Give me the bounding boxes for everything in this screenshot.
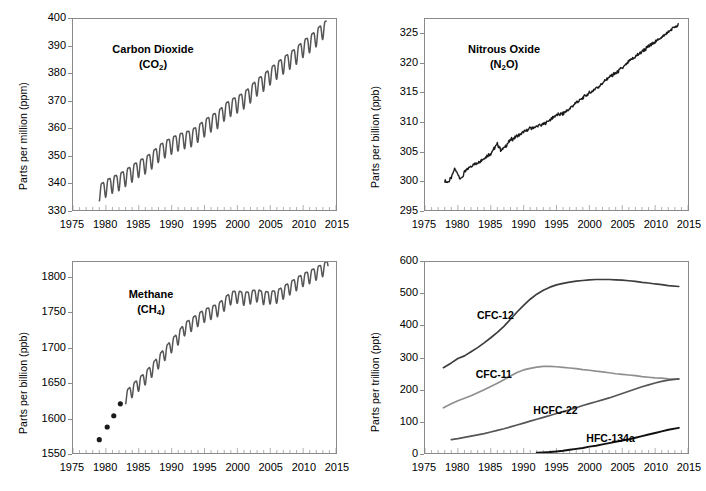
x-tick-label: 2015 [317, 218, 357, 230]
gas-title-n2o-name: Nitrous Oxide [468, 43, 540, 55]
series-label-cfc-11: CFC-11 [476, 368, 512, 380]
y-tick-label: 0 [380, 447, 418, 459]
y-tick-mark [420, 92, 424, 93]
y-tick-label: 1700 [28, 341, 66, 353]
data-point-marker [111, 413, 116, 418]
y-tick-label: 340 [28, 176, 66, 188]
minor-tick-marks [425, 205, 688, 210]
gas-title-co2-name: Carbon Dioxide [112, 43, 193, 55]
y-tick-mark [420, 358, 424, 359]
y-tick-mark [68, 18, 72, 19]
plot-area-halocarbons [424, 261, 689, 454]
x-tick-label: 2015 [669, 218, 706, 230]
minor-tick-marks [73, 448, 336, 453]
y-tick-label: 400 [380, 318, 418, 330]
data-point-marker [118, 401, 123, 406]
y-tick-mark [68, 348, 72, 349]
series-line-cfc-12 [443, 280, 678, 368]
y-tick-mark [68, 183, 72, 184]
y-tick-mark [420, 293, 424, 294]
y-tick-label: 390 [28, 39, 66, 51]
y-tick-label: 320 [380, 56, 418, 68]
y-tick-mark [68, 46, 72, 47]
gas-title-ch4: Methane (CH4) [86, 287, 216, 319]
gas-title-n2o-formula: (N2O) [490, 58, 518, 70]
y-tick-label: 350 [28, 149, 66, 161]
y-tick-mark [420, 390, 424, 391]
series-label-hcfc-22: HCFC-22 [533, 404, 577, 416]
y-tick-label: 295 [380, 204, 418, 216]
y-tick-mark [420, 122, 424, 123]
y-tick-mark [420, 454, 424, 455]
y-tick-mark [68, 156, 72, 157]
y-tick-label: 400 [28, 11, 66, 23]
y-tick-mark [68, 312, 72, 313]
y-tick-label: 300 [380, 174, 418, 186]
y-tick-mark [420, 33, 424, 34]
data-point-marker [105, 424, 110, 429]
axis-label-y-n2o: Parts per billion (ppb) [369, 86, 381, 188]
y-tick-mark [68, 73, 72, 74]
gas-title-co2: Carbon Dioxide (CO2) [88, 42, 218, 74]
y-tick-label: 1550 [28, 447, 66, 459]
y-tick-label: 330 [28, 204, 66, 216]
x-tick-label: 2015 [317, 461, 357, 473]
gas-title-n2o: Nitrous Oxide (N2O) [439, 42, 569, 74]
series-label-hfc-134a: HFC-134a [586, 432, 634, 444]
y-tick-mark [420, 152, 424, 153]
greenhouse-gas-figure: Parts per million (ppm) Carbon Dioxide (… [0, 0, 706, 491]
y-tick-label: 1750 [28, 305, 66, 317]
y-tick-label: 1600 [28, 412, 66, 424]
series-line-ch4 [126, 262, 328, 404]
panel-halocarbons: Parts per trillion (ppt) CFC-12CFC-11HCF… [353, 246, 706, 491]
y-tick-mark [68, 277, 72, 278]
y-tick-label: 1650 [28, 376, 66, 388]
y-tick-mark [68, 211, 72, 212]
y-tick-label: 100 [380, 415, 418, 427]
panel-methane: Parts per billion (ppb) Methane (CH4) 15… [0, 246, 353, 491]
gas-title-ch4-formula: (CH4) [137, 303, 165, 315]
y-tick-mark [420, 211, 424, 212]
y-tick-label: 305 [380, 145, 418, 157]
y-tick-mark [420, 325, 424, 326]
y-tick-mark [420, 181, 424, 182]
y-tick-label: 600 [380, 254, 418, 266]
y-tick-mark [68, 419, 72, 420]
y-tick-label: 380 [28, 66, 66, 78]
y-tick-mark [68, 454, 72, 455]
y-tick-mark [68, 383, 72, 384]
y-tick-mark [420, 422, 424, 423]
data-point-marker [97, 437, 102, 442]
y-tick-label: 500 [380, 286, 418, 298]
x-tick-label: 2015 [669, 461, 706, 473]
y-tick-label: 360 [28, 121, 66, 133]
panel-carbon-dioxide: Parts per million (ppm) Carbon Dioxide (… [0, 0, 353, 246]
y-tick-mark [68, 128, 72, 129]
minor-tick-marks [73, 205, 336, 210]
y-tick-mark [68, 101, 72, 102]
y-tick-label: 200 [380, 383, 418, 395]
y-tick-mark [420, 261, 424, 262]
y-tick-label: 1800 [28, 270, 66, 282]
gas-title-co2-formula: (CO2) [139, 58, 167, 70]
y-tick-label: 310 [380, 115, 418, 127]
plot-svg-halocarbons [425, 262, 688, 453]
y-tick-label: 325 [380, 26, 418, 38]
y-tick-label: 315 [380, 85, 418, 97]
y-tick-label: 370 [28, 94, 66, 106]
series-label-cfc-12: CFC-12 [477, 309, 514, 321]
y-tick-mark [420, 63, 424, 64]
y-tick-label: 300 [380, 351, 418, 363]
panel-nitrous-oxide: Parts per billion (ppb) Nitrous Oxide (N… [353, 0, 706, 246]
gas-title-ch4-name: Methane [129, 288, 174, 300]
